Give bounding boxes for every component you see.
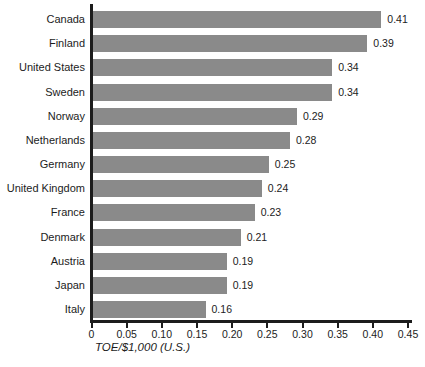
bar-row: France0.23 [0,204,425,221]
bar-row: Canada0.41 [0,11,425,28]
country-label: United Kingdom [0,180,85,197]
x-tick-label: 0.10 [152,328,172,340]
bar [93,59,332,76]
value-label: 0.34 [338,59,358,76]
bar-row: Italy0.16 [0,301,425,318]
value-label: 0.29 [303,108,323,125]
bar [93,156,269,173]
bar-row: United Kingdom0.24 [0,180,425,197]
x-tick-label: 0.15 [187,328,207,340]
value-label: 0.16 [212,301,232,318]
country-label: Norway [0,108,85,125]
value-label: 0.21 [247,229,267,246]
x-tick-mark [337,320,339,328]
x-tick-label: 0.40 [363,328,383,340]
value-label: 0.28 [296,132,316,149]
x-tick-label: 0.05 [116,328,136,340]
bar-row: Germany0.25 [0,156,425,173]
bar [93,204,255,221]
x-tick-mark [231,320,233,328]
x-tick-mark [302,320,304,328]
country-label: Japan [0,277,85,294]
value-label: 0.41 [387,11,407,28]
value-label: 0.25 [275,156,295,173]
country-label: Sweden [0,84,85,101]
bar-row: United States0.34 [0,59,425,76]
value-label: 0.23 [261,204,281,221]
value-label: 0.24 [268,180,288,197]
x-tick-mark [266,320,268,328]
x-axis-line [90,320,412,323]
x-tick-label: 0.25 [257,328,277,340]
x-tick-label: 0.45 [398,328,418,340]
x-tick-mark [126,320,128,328]
value-label: 0.34 [338,84,358,101]
country-label: Finland [0,35,85,52]
x-tick-mark [407,320,409,328]
country-label: Germany [0,156,85,173]
x-tick-label: 0 [89,328,95,340]
bar [93,132,290,149]
x-tick-label: 0.20 [222,328,242,340]
bar [93,180,262,197]
bar-row: Netherlands0.28 [0,132,425,149]
bar-row: Sweden0.34 [0,84,425,101]
bar [93,84,332,101]
bar [93,11,381,28]
country-label: Austria [0,253,85,270]
bar-row: Norway0.29 [0,108,425,125]
value-label: 0.39 [373,35,393,52]
value-label: 0.19 [233,253,253,270]
country-label: United States [0,59,85,76]
value-label: 0.19 [233,277,253,294]
bar-row: Denmark0.21 [0,229,425,246]
x-tick-label: 0.30 [292,328,312,340]
bar [93,301,206,318]
country-label: Canada [0,11,85,28]
bar [93,253,227,270]
bar-chart-figure: Canada0.41Finland0.39United States0.34Sw… [0,0,425,367]
country-label: Netherlands [0,132,85,149]
bar [93,277,227,294]
x-tick-mark [196,320,198,328]
x-tick-mark [372,320,374,328]
country-label: Denmark [0,229,85,246]
country-label: Italy [0,301,85,318]
x-tick-mark [91,320,93,328]
x-tick-mark [161,320,163,328]
y-axis-line [90,4,93,323]
country-label: France [0,204,85,221]
x-tick-label: 0.35 [327,328,347,340]
bar-row: Japan0.19 [0,277,425,294]
bar [93,108,297,125]
x-axis-title: TOE/$1,000 (U.S.) [95,341,190,353]
bar [93,229,241,246]
bar-row: Finland0.39 [0,35,425,52]
bar [93,35,367,52]
bar-row: Austria0.19 [0,253,425,270]
